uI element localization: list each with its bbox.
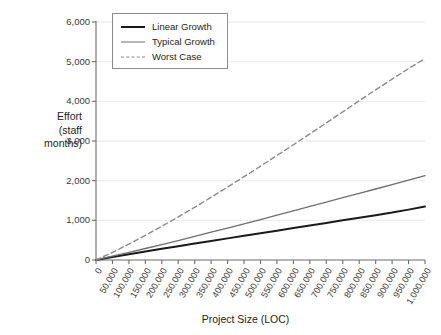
legend-item-typical-growth: Typical Growth	[113, 34, 227, 49]
y-axis-tick-label: 2,000	[44, 176, 90, 186]
legend-label: Linear Growth	[152, 22, 212, 32]
y-axis-tick-label: 0	[44, 255, 90, 265]
legend-label: Worst Case	[152, 52, 201, 62]
legend-line-sample	[121, 56, 145, 57]
legend-item-linear-growth: Linear Growth	[113, 19, 227, 34]
y-axis-tick-label: 5,000	[44, 57, 90, 67]
chart-legend: Linear GrowthTypical GrowthWorst Case	[112, 13, 228, 69]
legend-swatch-icon	[121, 37, 145, 47]
x-axis-title-text: Project Size (LOC)	[202, 313, 290, 325]
y-axis-title: Effort(staffmonths)	[6, 110, 82, 151]
y-axis-tick-label: 6,000	[44, 17, 90, 27]
legend-label: Typical Growth	[152, 37, 215, 47]
data-series	[96, 58, 425, 260]
legend-line-sample	[121, 41, 145, 42]
series-line-typical-growth	[96, 176, 425, 260]
y-axis-title-line: (staff	[6, 124, 82, 138]
y-axis-title-line: months)	[6, 137, 82, 151]
y-axis-tick-label: 4,000	[44, 96, 90, 106]
legend-line-sample	[121, 26, 145, 28]
legend-swatch-icon	[121, 22, 145, 32]
legend-swatch-icon	[121, 52, 145, 62]
series-line-linear-growth	[96, 206, 425, 260]
x-axis-title: Project Size (LOC)	[0, 313, 441, 325]
y-axis-tick-label: 1,000	[44, 215, 90, 225]
y-axis-title-line: Effort	[6, 110, 82, 124]
legend-item-worst-case: Worst Case	[113, 49, 227, 64]
series-line-worst-case	[96, 58, 425, 260]
effort-vs-project-size-chart: 01,0002,0003,0004,0005,0006,000 050,0001…	[0, 0, 441, 335]
